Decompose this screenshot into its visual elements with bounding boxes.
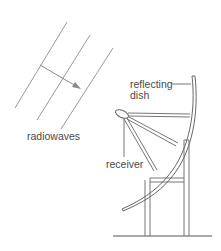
dish-stand: [145, 140, 189, 236]
direction-arrow-icon: [40, 65, 81, 89]
reflecting-dish-label-line2: dish: [130, 90, 149, 101]
wavefront-2: [37, 35, 90, 120]
wavefront-1: [15, 22, 67, 108]
receiver-label: receiver: [106, 159, 143, 170]
radio-telescope-diagram: [0, 0, 221, 251]
radiowave-lines: [15, 22, 113, 129]
radiowaves-label: radiowaves: [27, 131, 80, 142]
receiver-icon: [114, 108, 130, 120]
wavefront-3: [61, 48, 113, 129]
